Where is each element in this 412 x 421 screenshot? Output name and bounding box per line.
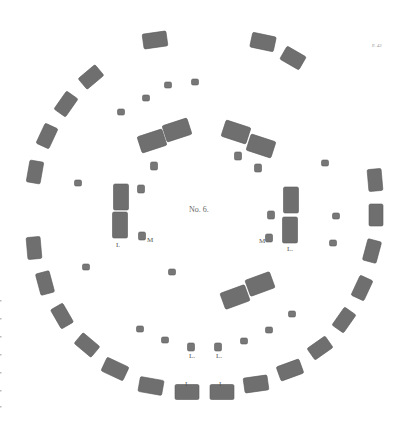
outer-stone bbox=[307, 336, 333, 360]
outer-stone bbox=[362, 239, 381, 264]
outer-stone bbox=[210, 385, 234, 400]
small-stone bbox=[75, 180, 82, 186]
label-right-small: M bbox=[259, 237, 266, 245]
inner-stone bbox=[138, 185, 145, 193]
outer-stone bbox=[35, 271, 54, 296]
outer-stone bbox=[369, 204, 383, 226]
outer-stone bbox=[332, 307, 356, 333]
trilithon-stone-left bbox=[113, 212, 128, 238]
stone-circle-plan: No. 6. P. 42 I. M M L. L. L. I I bbox=[0, 0, 412, 421]
inner-stone bbox=[139, 232, 146, 240]
outer-stone bbox=[74, 333, 100, 358]
outer-stone bbox=[26, 236, 42, 259]
small-stone bbox=[83, 264, 90, 270]
outer-stone bbox=[36, 123, 58, 149]
label-right-trilithon: L. bbox=[287, 245, 293, 253]
inner-stone bbox=[255, 164, 262, 172]
small-stone bbox=[162, 337, 169, 343]
small-stone bbox=[137, 326, 144, 332]
trilithon-stone-right bbox=[284, 187, 299, 213]
outer-stone bbox=[26, 160, 44, 184]
small-stone bbox=[192, 79, 199, 85]
trilithon-stone-bottom bbox=[220, 285, 250, 310]
small-stone bbox=[330, 240, 337, 246]
outer-stone bbox=[54, 91, 78, 117]
inner-near-stones bbox=[138, 152, 275, 351]
small-stone bbox=[322, 160, 329, 166]
trilithon-stone-bottom bbox=[245, 272, 275, 297]
outer-stone bbox=[243, 375, 269, 393]
label-bottom-left-2: L. bbox=[216, 352, 222, 360]
label-left-small: M bbox=[147, 236, 154, 244]
trilithon-stone-top-right bbox=[221, 120, 251, 144]
trilithon-stone-right bbox=[283, 217, 298, 243]
trilithon-stone-top-left bbox=[137, 129, 167, 153]
outer-stone bbox=[138, 377, 164, 396]
small-stone bbox=[289, 311, 296, 317]
outer-stone bbox=[367, 168, 383, 191]
small-stone bbox=[169, 269, 176, 275]
outer-stone bbox=[351, 275, 373, 301]
page-mark: P. 42 bbox=[372, 43, 382, 48]
outer-stone bbox=[78, 65, 104, 90]
inner-stone bbox=[268, 211, 275, 219]
small-stone bbox=[266, 327, 273, 333]
page-edge-marks bbox=[0, 300, 2, 408]
outer-stone bbox=[250, 32, 277, 52]
inner-stone bbox=[266, 234, 273, 242]
label-left-trilithon: I. bbox=[116, 241, 120, 249]
outer-ring bbox=[26, 31, 383, 400]
inner-stone bbox=[235, 152, 242, 160]
small-stone bbox=[241, 338, 248, 344]
trilithon-stone-top-left bbox=[162, 118, 192, 142]
outer-stone bbox=[280, 46, 307, 70]
plate-title: No. 6. bbox=[189, 205, 209, 214]
outer-stone bbox=[50, 303, 73, 329]
small-stone bbox=[165, 82, 172, 88]
small-stone bbox=[118, 109, 125, 115]
trilithon-stone-top-right bbox=[246, 134, 276, 158]
inner-stone bbox=[188, 343, 195, 351]
inner-stone bbox=[215, 343, 222, 351]
outer-stone bbox=[276, 359, 304, 381]
small-stone bbox=[333, 213, 340, 219]
trilithon-stone-left bbox=[114, 184, 129, 210]
inner-stone bbox=[151, 162, 158, 170]
outer-stone bbox=[142, 31, 168, 49]
small-stone bbox=[143, 95, 150, 101]
outer-stone bbox=[101, 357, 129, 381]
label-bottom-left-1: L. bbox=[189, 352, 195, 360]
